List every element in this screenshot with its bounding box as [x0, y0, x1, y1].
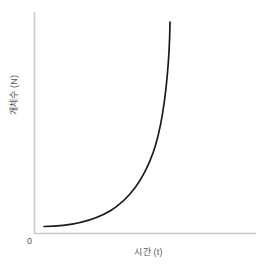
- exponential-growth-chart: 시간 (t) 개체수 (N) 0: [0, 0, 271, 272]
- plot-area: [0, 0, 271, 272]
- y-axis-label-container: 개체수 (N): [3, 45, 17, 145]
- origin-label: 0: [27, 236, 32, 246]
- x-axis-label-text: 시간 (t): [134, 247, 162, 257]
- y-axis-label: 개체수 (N): [7, 75, 20, 115]
- x-axis-label: 시간 (t): [0, 245, 271, 258]
- exponential-curve: [44, 22, 170, 227]
